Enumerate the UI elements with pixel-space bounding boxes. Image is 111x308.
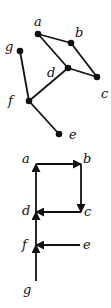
node-label-d: d — [47, 65, 55, 80]
node-e — [56, 131, 63, 138]
edge-b-c — [71, 43, 97, 77]
graph-diagram: abcdefg abcdefg — [0, 0, 111, 308]
vertex-label-f: f — [21, 237, 29, 252]
node-label-f: f — [7, 93, 15, 108]
node-label-c: c — [101, 86, 109, 101]
node-label-e: e — [69, 127, 77, 142]
vertex-label-b: b — [83, 151, 91, 166]
vertex-label-d: d — [22, 203, 30, 218]
node-b — [68, 40, 75, 47]
directed-graph: abcdefg — [21, 151, 92, 297]
vertex-label-a: a — [22, 151, 30, 166]
edge-a-d — [38, 34, 68, 68]
vertex-label-g: g — [23, 282, 31, 297]
node-g — [17, 48, 24, 55]
undirected-graph: abcdefg — [5, 14, 109, 142]
node-label-g: g — [5, 39, 13, 54]
node-label-b: b — [75, 25, 83, 40]
node-d — [65, 65, 72, 72]
edge-f-e — [29, 101, 59, 134]
node-label-a: a — [34, 14, 42, 29]
node-f — [26, 98, 33, 105]
node-c — [94, 74, 101, 81]
vertex-label-e: e — [83, 237, 91, 252]
vertex-label-c: c — [84, 204, 92, 219]
edge-g-f — [20, 51, 29, 101]
node-a — [35, 31, 42, 38]
